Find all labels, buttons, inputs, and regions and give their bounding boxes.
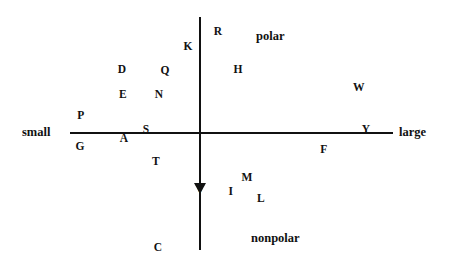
data-point-label: I xyxy=(229,186,234,198)
data-point-label: W xyxy=(353,82,365,94)
y-axis-line xyxy=(199,17,201,250)
data-point-label: L xyxy=(257,193,265,205)
data-point-label: H xyxy=(233,64,242,76)
data-point-label: S xyxy=(143,124,150,136)
data-point-label: D xyxy=(118,64,127,76)
data-point-label: F xyxy=(320,144,327,156)
data-point-label: G xyxy=(75,141,84,153)
data-point-label: Q xyxy=(160,65,169,77)
quadrant-label-polar: polar xyxy=(256,30,284,43)
quadrant-label-nonpolar: nonpolar xyxy=(251,232,300,245)
data-point-label: P xyxy=(77,110,84,122)
data-point-label: K xyxy=(183,41,192,53)
x-axis-right-label: large xyxy=(399,126,426,139)
scatter-plot-figure: small large polar nonpolar RKHDQENWPSYAG… xyxy=(0,0,449,271)
data-point-label: M xyxy=(241,172,252,184)
data-point-label: E xyxy=(119,89,127,101)
data-point-label: C xyxy=(154,242,163,254)
data-point-label: R xyxy=(214,26,223,38)
x-axis-left-label: small xyxy=(22,126,50,139)
data-point-label: Y xyxy=(362,124,371,136)
data-point-label: V xyxy=(196,184,205,196)
data-point-label: T xyxy=(152,156,160,168)
x-axis-line xyxy=(70,132,393,134)
data-point-label: A xyxy=(120,133,129,145)
data-point-label: N xyxy=(155,89,164,101)
